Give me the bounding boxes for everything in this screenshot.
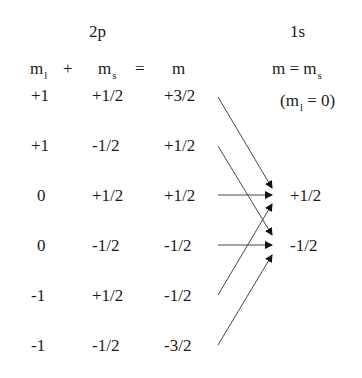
transition-arrows <box>0 0 362 378</box>
arrow-row1 <box>218 146 272 235</box>
arrow-row0 <box>218 97 272 188</box>
arrow-row4 <box>218 204 272 295</box>
arrow-row5 <box>218 255 272 345</box>
